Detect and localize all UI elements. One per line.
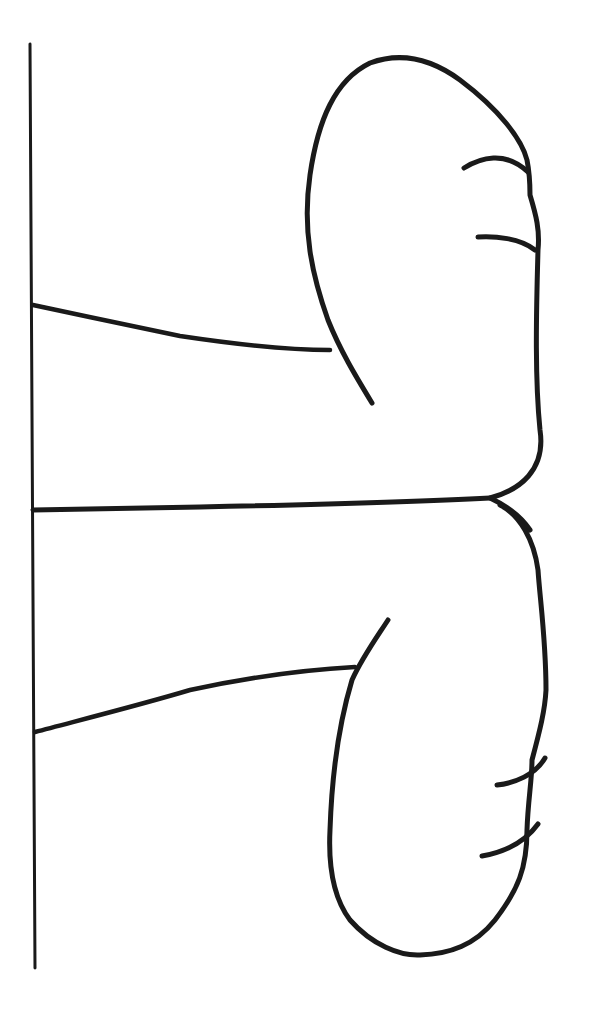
vertical-baseline [30, 44, 35, 968]
middle-leg-line [33, 498, 490, 510]
lower-toe-line-1 [497, 758, 545, 785]
line-drawing-canvas [0, 0, 590, 1027]
lower-toe-line-2 [482, 824, 538, 856]
feet-drawing [0, 0, 590, 1027]
lower-leg-bottom-line [35, 667, 355, 732]
lower-foot-outline [330, 505, 546, 955]
upper-toe-line-2 [478, 237, 535, 250]
upper-foot-outline [307, 58, 541, 530]
upper-leg-top-line [33, 305, 330, 350]
upper-toe-line-1 [464, 158, 528, 172]
